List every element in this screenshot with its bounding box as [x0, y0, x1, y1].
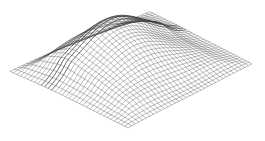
- mesh-line: [68, 23, 179, 102]
- mesh-line: [10, 71, 128, 127]
- mesh-line: [41, 16, 177, 85]
- mesh-line: [128, 64, 252, 128]
- mesh-line: [26, 61, 142, 120]
- mesh-line: [146, 13, 248, 65]
- mesh-line: [34, 21, 171, 82]
- mesh-line: [27, 19, 165, 79]
- mesh-line: [76, 18, 186, 97]
- mesh-line: [121, 61, 246, 125]
- surface-mesh: [10, 12, 252, 128]
- wireframe-surface-plot: [0, 0, 265, 141]
- mesh-line: [109, 18, 216, 82]
